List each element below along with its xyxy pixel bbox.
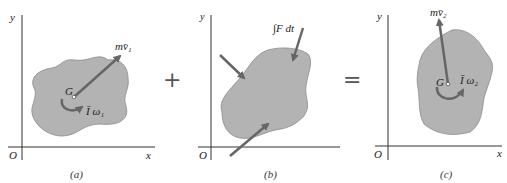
linear-momentum-label: mv̄₁ [115, 40, 132, 52]
origin-label: O [199, 149, 207, 161]
plus-sign: + [163, 67, 181, 92]
angular-momentum-label: Ī ω₁ [85, 105, 104, 117]
mass-center-label: G [436, 76, 444, 88]
y-axis-label: y [376, 10, 382, 22]
impulse-arrow-left [220, 55, 244, 78]
rigid-body [417, 30, 492, 135]
rigid-body [32, 57, 129, 136]
y-axis-label: y [9, 11, 15, 23]
x-axis-label: x [145, 149, 151, 161]
mass-center-label: G [65, 85, 73, 97]
linear-momentum-label: mv̄₂ [430, 6, 447, 18]
origin-label: O [9, 149, 17, 161]
impulse-label: ∫F dt [272, 22, 295, 35]
caption-a: (a) [70, 168, 83, 181]
origin-label: O [374, 148, 382, 160]
x-axis-label: x [496, 147, 502, 159]
mass-center-point [446, 82, 450, 86]
panel-a: y x O G mv̄₁ Ī ω₁ (a) [8, 11, 155, 181]
caption-c: (c) [440, 168, 453, 181]
panel-c: y x O G mv̄₂ Ī ω₂ (c) [374, 6, 502, 181]
y-axis-label: y [199, 11, 205, 22]
angular-momentum-label: Ī ω₂ [459, 74, 478, 86]
equals-sign: = [343, 67, 361, 92]
panel-b: y O ∫F dt (b) [198, 11, 340, 181]
impulse-momentum-diagram: y x O G mv̄₁ Ī ω₁ (a) + y O ∫F dt (b) = … [0, 0, 507, 183]
caption-b: (b) [264, 168, 277, 181]
